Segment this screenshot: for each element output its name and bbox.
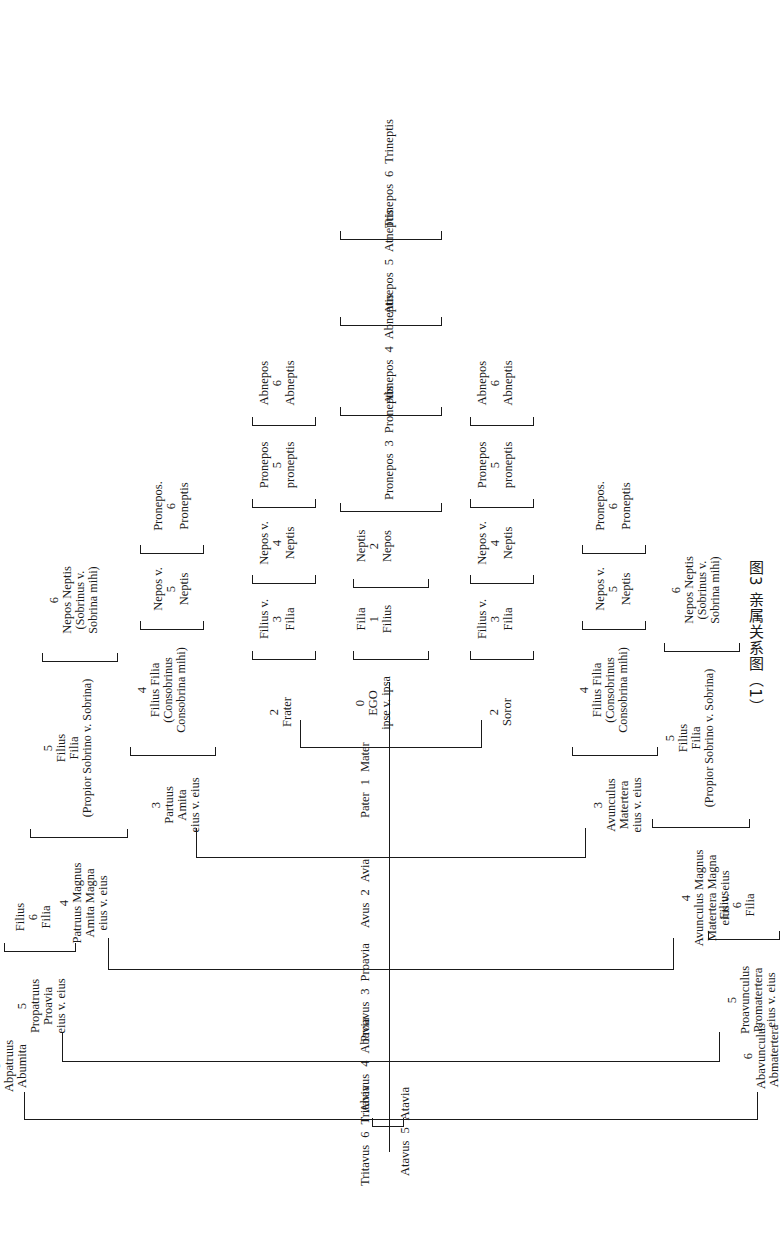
descendant-male-label: Abnepos xyxy=(382,360,397,404)
bracket-avunculus-6 xyxy=(582,545,646,554)
ancestor-male-label: Proavus xyxy=(358,1002,373,1042)
soror-node: 2 Soror xyxy=(488,684,514,740)
connector-avus-to-patruus xyxy=(196,857,390,858)
line-2: proneptis xyxy=(502,432,515,498)
soror-desc-5: Pronepos 5 proneptis xyxy=(476,432,515,498)
kinship-diagram-canvas: Tritavus6Tritavia Atavus5Atavia Abavus4A… xyxy=(0,0,780,1248)
bracket-abnepos-4 xyxy=(340,407,442,416)
line-2: Abneptis xyxy=(502,350,515,416)
connector-proavunculus-stub xyxy=(719,1032,720,1062)
descendant-filius-1: Filia 1 Filius xyxy=(355,590,394,648)
bracket-patruus-5 xyxy=(140,621,204,630)
line-2: proneptis xyxy=(284,432,297,498)
avunculus-desc-5: Nepos v. 5 Neptis xyxy=(594,558,633,620)
bracket-avunculus-5 xyxy=(582,621,646,630)
connector-abavus-to-propatruus xyxy=(62,1061,390,1062)
frater-desc-6: Abnepos 6 Abneptis xyxy=(258,350,297,416)
ancestor-female-label: Avia xyxy=(358,859,373,882)
bracket-avunculus-children xyxy=(572,747,658,756)
propatruus-desc-6: Filius 6 Filia xyxy=(14,892,53,942)
degree-number: 5 xyxy=(398,1127,413,1133)
bracket-frater-children xyxy=(252,651,316,660)
bracket-pronepos-3 xyxy=(340,503,442,512)
soror-desc-6: Abnepos 6 Abneptis xyxy=(476,350,515,416)
avunculus-desc-6: Pronepos. 6 Proneptis xyxy=(594,468,633,544)
line-3: eius v. eius xyxy=(55,958,68,1054)
frater-label: Frater xyxy=(281,684,294,740)
descendant-male-label: Filius xyxy=(381,590,394,648)
connector-avunculus-stub xyxy=(585,828,586,858)
bracket-soror-6 xyxy=(470,417,534,426)
line-2: (Sobrinus v. xyxy=(74,548,87,652)
line-3: (Propior Sobrino v. Sobrina) xyxy=(81,668,94,828)
bracket-atnepos-5 xyxy=(340,317,442,326)
avunculus-node: 3 Avunculus Matertera eius v. eius xyxy=(592,760,644,850)
soror-label: Soror xyxy=(501,684,514,740)
descendant-male-label: Nepos xyxy=(381,516,394,576)
line-2: Neptis xyxy=(178,558,191,620)
bracket-ego-children xyxy=(353,651,429,660)
connector-avunculus-magnus-stub xyxy=(673,938,674,970)
line-2: Abmatertera xyxy=(768,1000,780,1112)
patruus-desc-6: Pronepos. 6 Proneptis xyxy=(152,468,191,544)
ego-qualifier: ipse v. ipsa xyxy=(380,666,393,740)
connector-soror-stub xyxy=(481,720,482,748)
line-3: Consobrina mihi) xyxy=(617,634,630,746)
line-3: eius v. eius xyxy=(189,760,202,850)
frater-node: 2 Frater xyxy=(268,684,294,740)
ancestor-atavus: Atavus5Atavia xyxy=(398,1087,413,1176)
abavunculus-node: 6 Abavunculus Abmatertera xyxy=(742,1000,780,1112)
line-2: Neptis xyxy=(502,512,515,574)
frater-desc-3: Filius v. 3 Filia xyxy=(258,588,297,650)
connector-proavus-to-patruus-magnus xyxy=(108,969,390,970)
line-2: Filia xyxy=(502,588,515,650)
line-2: Abneptis xyxy=(284,350,297,416)
proavunculus-desc-6: Filius 6 Filia xyxy=(718,880,757,930)
figure-caption: 图3 亲属关系图（1） xyxy=(745,560,766,715)
bracket-nepos-2 xyxy=(353,579,429,588)
patruus-node: 3 Partuus Amita eius v. eius xyxy=(150,760,202,850)
ancestor-female-label: Proavia xyxy=(358,943,373,981)
line-2: Neptis xyxy=(620,558,633,620)
frater-desc-5: Pronepos 5 proneptis xyxy=(258,432,297,498)
bracket-patruus-magnus-6 xyxy=(42,653,118,662)
degree-number: 2 xyxy=(358,889,373,895)
abpatruus-node: 6 Abpatruus Abumita xyxy=(0,1020,29,1112)
connector-abavus-to-abavunculus xyxy=(389,1119,757,1120)
line-2: Filia xyxy=(284,588,297,650)
ancestor-male-label: Tritavus xyxy=(358,1145,373,1186)
degree-number: 6 xyxy=(358,1132,373,1138)
line-3: eius v. eius xyxy=(97,844,110,962)
patruus-magnus-desc-6: 6 Nepos Neptis (Sobrinus v. Sobrina mihi… xyxy=(48,548,99,652)
kinship-diagram-rotated-wrapper: Tritavus6Tritavia Atavus5Atavia Abavus4A… xyxy=(0,0,780,1248)
descendant-male-label: Atnepos xyxy=(382,272,397,314)
bracket-frater-4 xyxy=(252,575,316,584)
line-3: Consobrina mihi) xyxy=(175,634,188,746)
avunculus-magnus-desc-5: 5 Filius Filia (Propior Sobrino v. Sobri… xyxy=(664,658,716,818)
patruus-desc-5: Nepos v. 5 Neptis xyxy=(152,558,191,620)
connector-avus-to-avunculus xyxy=(389,857,585,858)
line-2: Neptis xyxy=(284,512,297,574)
bracket-propatruus-children xyxy=(4,943,76,952)
patruus-desc-4: 4 Filius Filia (Consobrinus Consobrina m… xyxy=(136,634,187,746)
patruus-magnus-desc-5: 5 Filius Filia (Propior Sobrino v. Sobri… xyxy=(42,668,94,828)
connector-pater-to-soror xyxy=(389,747,481,748)
bracket-soror-4 xyxy=(470,575,534,584)
frater-desc-4: Nepos v. 4 Neptis xyxy=(258,512,297,574)
degree-number: 6 xyxy=(382,171,397,177)
ancestor-male-label: Atavus xyxy=(398,1141,413,1176)
connector-proavus-to-avunculus-magnus xyxy=(389,969,673,970)
descendant-trinepos-6: Trinepos6Trineptis xyxy=(382,119,397,228)
bracket-avunculus-magnus-children xyxy=(652,819,750,828)
bracket-frater-6 xyxy=(252,417,316,426)
bracket-avunculus-magnus-6 xyxy=(664,643,740,652)
degree-number: 3 xyxy=(358,988,373,994)
line-2: Filia xyxy=(40,892,53,942)
bracket-soror-children xyxy=(470,651,534,660)
ancestor-pater: Pater1Mater xyxy=(358,742,373,818)
line-3: Sobrina mihi) xyxy=(87,548,100,652)
descendant-male-label: Pronepos xyxy=(382,453,397,500)
line-3: eius v. eius xyxy=(631,760,644,850)
bracket-trinepos-6 xyxy=(340,231,442,240)
connector-pater-to-frater xyxy=(300,747,390,748)
